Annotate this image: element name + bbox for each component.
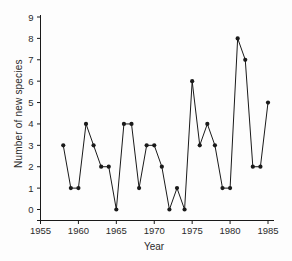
data-point (160, 165, 164, 169)
y-tick-label: 1 (28, 183, 33, 194)
data-point (190, 79, 194, 83)
x-tick-label: 1980 (220, 225, 241, 236)
data-point (228, 186, 232, 190)
y-tick-label: 2 (28, 161, 33, 172)
data-point (145, 143, 149, 147)
y-tick-label: 8 (28, 33, 33, 44)
data-point (198, 143, 202, 147)
data-point (61, 143, 65, 147)
y-tick-label: 6 (28, 76, 33, 87)
y-tick-label: 5 (28, 97, 33, 108)
data-point (76, 186, 80, 190)
data-point (205, 122, 209, 126)
data-point (99, 165, 103, 169)
y-tick-label: 0 (28, 204, 33, 215)
y-tick-label: 3 (28, 140, 33, 151)
data-point (91, 143, 95, 147)
data-point (107, 165, 111, 169)
x-tick-label: 1975 (182, 225, 203, 236)
x-tick-label: 1985 (257, 225, 278, 236)
y-tick-label: 9 (28, 12, 33, 23)
y-tick-label: 7 (28, 54, 33, 65)
data-point (251, 165, 255, 169)
chart-canvas: 01234567891955196019651970197519801985 (0, 0, 292, 261)
data-point (182, 207, 186, 211)
data-point (122, 122, 126, 126)
data-point (266, 100, 270, 104)
data-point (114, 207, 118, 211)
y-axis-title: Number of new species (13, 59, 24, 168)
data-point (236, 36, 240, 40)
data-point (213, 143, 217, 147)
x-tick-label: 1970 (144, 225, 165, 236)
data-line (63, 38, 268, 209)
data-point (69, 186, 73, 190)
data-point (137, 186, 141, 190)
y-tick-label: 4 (28, 118, 33, 129)
line-chart-figure: 01234567891955196019651970197519801985 N… (0, 0, 292, 261)
x-tick-label: 1965 (106, 225, 127, 236)
data-point (129, 122, 133, 126)
x-tick-label: 1955 (30, 225, 51, 236)
data-point (258, 165, 262, 169)
x-tick-label: 1960 (68, 225, 89, 236)
data-point (84, 122, 88, 126)
data-point (220, 186, 224, 190)
data-point (243, 58, 247, 62)
data-point (175, 186, 179, 190)
data-point (152, 143, 156, 147)
data-point (167, 207, 171, 211)
x-axis-title: Year (40, 241, 268, 252)
